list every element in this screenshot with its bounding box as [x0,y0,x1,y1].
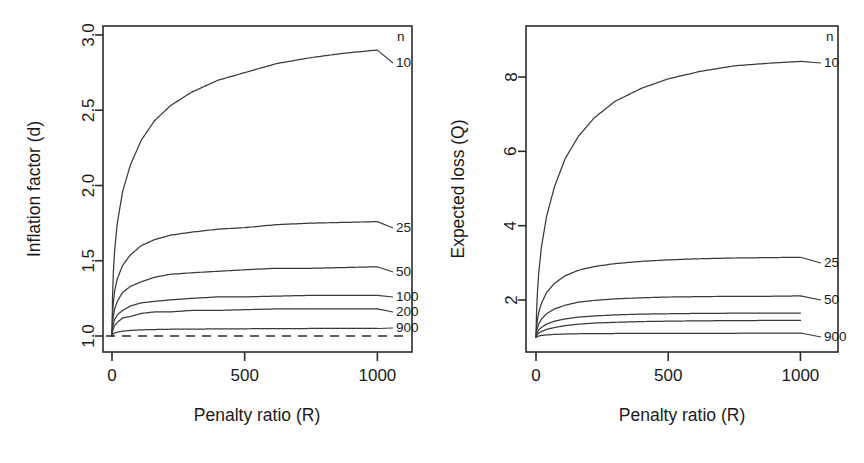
y-tick-label: 2.0 [79,174,98,198]
series-curve-900 [536,333,800,337]
series-curve-10 [112,50,377,336]
x-tick-label: 500 [231,366,259,385]
y-tick-label: 1.5 [79,249,98,273]
series-leader-10 [800,61,821,63]
series-label-200: 200 [396,304,419,319]
series-label-25: 25 [396,220,411,235]
chart-svg-right: 246805001000Expected loss (Q)Penalty rat… [432,0,864,463]
y-axis-title: Expected loss (Q) [448,119,468,258]
x-tick-label: 0 [107,366,116,385]
y-tick-label: 2 [502,295,521,304]
y-tick-label: 2.5 [79,98,98,122]
y-tick-label: 6 [502,147,521,156]
x-axis-title: Penalty ratio (R) [194,405,320,425]
figure-container: 1.01.52.02.53.005001000Inflation factor … [0,0,864,463]
series-leader-25 [800,257,821,263]
x-tick-label: 500 [654,366,682,385]
series-label-100: 100 [396,289,419,304]
x-tick-label: 0 [531,366,540,385]
series-leader-100 [377,295,393,297]
series-curve-200 [112,309,377,336]
series-leader-50 [377,267,393,272]
series-label-50: 50 [824,292,839,307]
series-label-10: 10 [396,55,411,70]
series-leader-10 [377,50,393,63]
x-axis-title: Penalty ratio (R) [619,405,745,425]
y-tick-label: 3.0 [79,23,98,47]
series-leader-50 [800,296,821,300]
legend-header: n [826,29,834,44]
series-label-50: 50 [396,264,411,279]
series-label-900: 900 [396,320,419,335]
y-tick-label: 8 [502,72,521,81]
legend-header: n [397,29,405,44]
series-curve-900 [112,328,377,336]
series-label-25: 25 [824,255,839,270]
series-curve-200 [536,320,800,337]
chart-svg-left: 1.01.52.02.53.005001000Inflation factor … [0,0,432,463]
chart-panel-right: 246805001000Expected loss (Q)Penalty rat… [432,0,864,463]
chart-panel-left: 1.01.52.02.53.005001000Inflation factor … [0,0,432,463]
series-label-900: 900 [824,329,847,344]
series-curve-50 [536,296,800,337]
series-leader-25 [377,222,393,228]
x-tick-label: 1000 [358,366,396,385]
series-leader-200 [377,309,393,312]
x-tick-label: 1000 [782,366,820,385]
plot-frame [103,26,412,352]
y-tick-label: 4 [502,221,521,230]
y-tick-label: 1.0 [79,324,98,348]
series-label-10: 10 [824,55,839,70]
series-leader-900 [800,333,821,337]
y-axis-title: Inflation factor (d) [24,121,44,257]
